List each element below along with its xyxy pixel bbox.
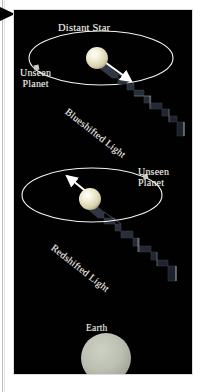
figure-root: Distant Star Unseen Planet Unseen Planet… [0, 0, 208, 392]
label-unseen-planet-top: Unseen Planet [20, 67, 51, 89]
star-sphere-icon-bottom [79, 188, 101, 210]
label-earth: Earth [86, 323, 108, 334]
star-sphere-icon [86, 47, 108, 69]
left-margin-rule [2, 0, 3, 392]
illustration-panel: Distant Star Unseen Planet Unseen Planet… [13, 9, 193, 375]
diagram-stage: Distant Star Unseen Planet Unseen Planet… [14, 10, 192, 374]
doppler-diagram-svg [14, 10, 193, 375]
light-wave-icon-redshifted [84, 200, 176, 281]
left-margin-rule-secondary [4, 0, 5, 392]
light-wave-icon-blueshifted [98, 62, 184, 136]
label-distant-star: Distant Star [58, 22, 110, 34]
earth-sphere-icon [81, 333, 131, 375]
top-system-group [29, 31, 184, 136]
label-unseen-planet-bottom: Unseen Planet [138, 166, 169, 188]
